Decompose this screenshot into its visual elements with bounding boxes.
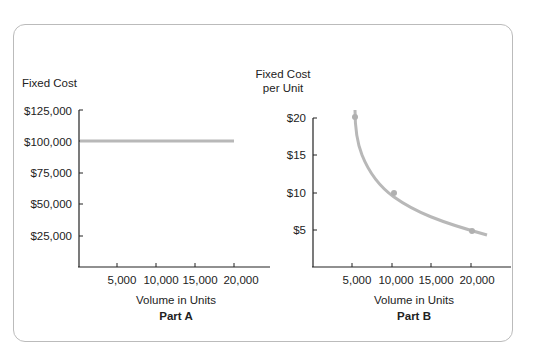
- part-a-xlabel: Volume in Units: [136, 294, 216, 306]
- part-a-ytick: $125,000: [24, 105, 72, 117]
- part-b-xtick: 5,000: [343, 274, 372, 286]
- part-a-xtick: 15,000: [182, 274, 217, 286]
- part-a-xtick: 5,000: [108, 274, 137, 286]
- part-b-caption: Part B: [397, 310, 431, 322]
- part-a-ytick: $75,000: [30, 167, 72, 179]
- part-a-ytick: $100,000: [24, 136, 72, 148]
- data-point: [391, 190, 397, 196]
- part-b-xtick: 20,000: [459, 274, 494, 286]
- part-b-ytick: $10: [287, 187, 306, 199]
- part-b-ytick: $5: [293, 224, 306, 236]
- part-a-chart: Fixed Cost $125,000 $100,000 $75,000 $50…: [22, 77, 270, 322]
- part-b-xtick: 15,000: [418, 274, 453, 286]
- part-a-ytick: $25,000: [30, 230, 72, 242]
- part-a-xtick: 20,000: [223, 274, 258, 286]
- part-b-xtick: 10,000: [378, 274, 413, 286]
- part-a-ylabel: Fixed Cost: [22, 77, 78, 89]
- part-a-xtick: 10,000: [143, 274, 178, 286]
- charts-svg: Fixed Cost $125,000 $100,000 $75,000 $50…: [0, 0, 534, 356]
- part-a-caption: Part A: [159, 310, 192, 322]
- data-point: [469, 228, 475, 234]
- part-a-ytick: $50,000: [30, 198, 72, 210]
- part-b-ylabel-line2: per Unit: [263, 82, 304, 94]
- data-point: [352, 114, 358, 120]
- part-b-chart: Fixed Cost per Unit $20 $15 $10 $5 5,000…: [256, 68, 511, 322]
- part-b-ylabel-line1: Fixed Cost: [256, 68, 312, 80]
- part-b-cost-per-unit-curve: [355, 110, 487, 235]
- part-b-ytick: $15: [287, 149, 306, 161]
- part-b-ytick: $20: [287, 112, 306, 124]
- part-b-xlabel: Volume in Units: [374, 294, 454, 306]
